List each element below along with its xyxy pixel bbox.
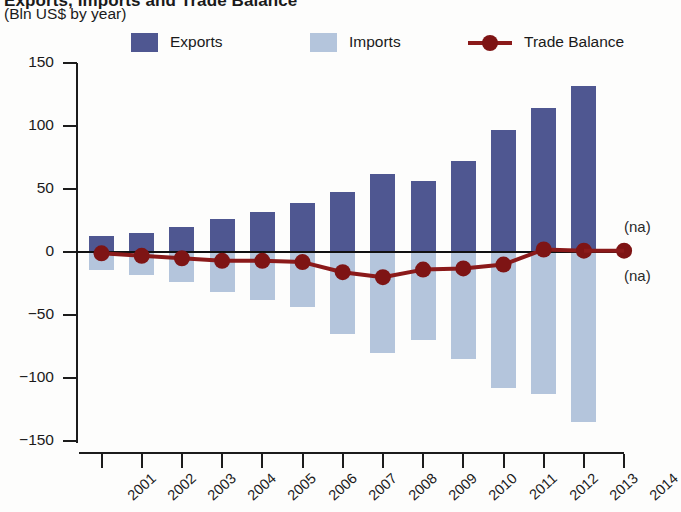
bar-imports <box>330 252 355 334</box>
y-axis-tick-mark <box>63 314 77 316</box>
x-axis-tick-mark <box>382 454 384 468</box>
y-axis-tick-label: −100 <box>8 368 54 386</box>
y-axis-tick-mark <box>63 377 77 379</box>
x-axis-tick-label: 2011 <box>526 470 560 503</box>
x-axis-tick-label: 2012 <box>566 470 601 503</box>
x-axis-tick-label: 2006 <box>325 470 360 503</box>
bar-imports <box>370 252 395 353</box>
bar-exports <box>290 203 315 252</box>
x-axis-tick-label: 2003 <box>204 470 239 503</box>
bar-exports <box>129 233 154 252</box>
bar-imports <box>451 252 476 359</box>
x-axis-tick-label: 2002 <box>164 470 199 503</box>
x-axis-tick-mark <box>141 454 143 468</box>
bar-exports <box>571 86 596 252</box>
x-axis-tick-mark <box>342 454 344 468</box>
bar-imports <box>531 252 556 394</box>
x-axis-tick-label: 2010 <box>486 470 521 503</box>
x-axis-tick-label: 2005 <box>285 470 320 503</box>
zero-baseline <box>76 251 620 253</box>
x-axis-tick-label: 2001 <box>124 470 159 503</box>
x-axis-tick-label: 2007 <box>365 470 400 503</box>
x-axis-tick-label: 2014 <box>646 470 681 503</box>
x-axis-tick-mark <box>543 454 545 468</box>
bar-imports <box>491 252 516 388</box>
bar-imports <box>250 252 275 300</box>
bar-exports <box>451 161 476 252</box>
x-axis-tick-label: 2008 <box>405 470 440 503</box>
na-upper-annotation: (na) <box>624 218 651 235</box>
x-axis-tick-mark <box>261 454 263 468</box>
x-axis-tick-mark <box>422 454 424 468</box>
y-axis-tick-mark <box>63 62 77 64</box>
x-axis-tick-mark <box>623 454 625 468</box>
x-axis-tick-label: 2013 <box>606 470 641 503</box>
y-axis-tick-label: 0 <box>8 242 54 260</box>
bar-exports <box>89 236 114 252</box>
na-lower-annotation: (na) <box>624 267 651 284</box>
bar-exports <box>330 192 355 252</box>
y-axis-spine <box>76 63 78 443</box>
y-axis-tick-label: −50 <box>8 305 54 323</box>
bar-exports <box>250 212 275 252</box>
y-axis-tick-mark <box>63 251 77 253</box>
bar-imports <box>169 252 194 282</box>
bar-imports <box>571 252 596 422</box>
bar-exports <box>531 108 556 252</box>
bar-exports <box>411 181 436 252</box>
bar-imports <box>129 252 154 275</box>
x-axis-tick-mark <box>101 454 103 468</box>
y-axis-tick-label: 100 <box>8 116 54 134</box>
y-axis-tick-mark <box>63 125 77 127</box>
x-axis-tick-label: 2009 <box>445 470 480 503</box>
bar-imports <box>411 252 436 340</box>
x-axis-tick-label: 2004 <box>244 470 279 503</box>
bar-exports <box>210 219 235 252</box>
bar-exports <box>169 227 194 252</box>
y-axis-tick-label: 50 <box>8 179 54 197</box>
bar-imports <box>210 252 235 292</box>
bar-exports <box>370 174 395 252</box>
y-axis-tick-mark <box>63 188 77 190</box>
bar-imports <box>89 252 114 270</box>
y-axis-tick-label: −150 <box>8 431 54 449</box>
x-axis-tick-mark <box>302 454 304 468</box>
x-axis-tick-mark <box>583 454 585 468</box>
bar-exports <box>491 130 516 252</box>
y-axis-tick-label: 150 <box>8 53 54 71</box>
y-axis-tick-mark <box>63 440 77 442</box>
x-axis-tick-mark <box>462 454 464 468</box>
x-axis-tick-mark <box>181 454 183 468</box>
bar-imports <box>290 252 315 307</box>
x-axis-tick-mark <box>503 454 505 468</box>
x-axis-tick-mark <box>221 454 223 468</box>
